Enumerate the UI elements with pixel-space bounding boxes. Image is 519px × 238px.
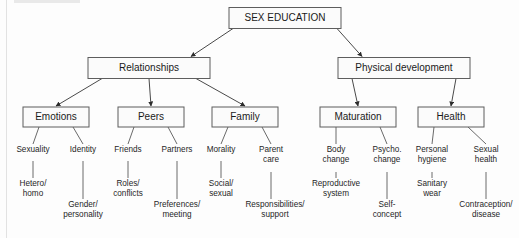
stem-family-to-morality bbox=[221, 127, 228, 144]
node-health-label: Health bbox=[437, 111, 466, 122]
leaf-text-line: concept bbox=[373, 210, 402, 219]
leaf-text-line: Psycho. bbox=[372, 145, 401, 154]
leaf-text-line: homo bbox=[23, 189, 44, 198]
leaf-sanitary-wear: Sanitarywear bbox=[417, 179, 448, 198]
leaf-text-line: Roles/ bbox=[116, 179, 140, 188]
leaf-text-line: change bbox=[374, 155, 401, 164]
leaf-text-line: Gender/ bbox=[68, 200, 98, 209]
stem-emotions-to-identity bbox=[73, 127, 83, 144]
leaf-text-line: Identity bbox=[70, 145, 97, 154]
leaf-text-line: Sanitary bbox=[417, 179, 448, 188]
leaf-parent-care: Parentcare bbox=[259, 145, 284, 164]
arrow-relationships-to-family bbox=[196, 79, 245, 107]
leaf-sexual-health: Sexualhealth bbox=[473, 145, 498, 164]
node-peers: Peers bbox=[118, 107, 184, 127]
leaf-text-line: personality bbox=[63, 210, 104, 219]
leaf-morality: Morality bbox=[207, 145, 237, 154]
leaf-identity: Identity bbox=[70, 145, 97, 154]
arrow-physical-development-to-maturation bbox=[352, 79, 358, 107]
leaf-social-sexual: Social/sexual bbox=[209, 179, 234, 198]
clipped-header-artifact bbox=[14, 0, 80, 3]
leaf-friends: Friends bbox=[114, 145, 141, 154]
leaf-text-line: disease bbox=[472, 210, 501, 219]
leaf-responsibilities-support: Responsibilities/support bbox=[245, 200, 305, 219]
node-family: Family bbox=[212, 107, 278, 127]
arrow-relationships-to-emotions bbox=[56, 79, 102, 107]
leaf-contraception-disease: Contraception/disease bbox=[459, 200, 513, 219]
leaf-roles-conflicts: Roles/conflicts bbox=[113, 179, 143, 198]
leaf-text-line: sexual bbox=[209, 189, 233, 198]
leaf-gender-personality: Gender/personality bbox=[63, 200, 104, 219]
leaf-text-line: Parent bbox=[259, 145, 284, 154]
node-emotions-label: Emotions bbox=[35, 111, 77, 122]
leaf-reproductive-system: Reproductivesystem bbox=[312, 179, 361, 198]
stem-family-to-parent-care bbox=[262, 127, 271, 144]
node-sex-education: SEX EDUCATION bbox=[229, 8, 341, 29]
leaf-hetero-homo: Hetero/homo bbox=[20, 179, 48, 198]
leaf-sexuality: Sexuality bbox=[16, 145, 50, 154]
leaf-text-line: meeting bbox=[162, 210, 192, 219]
leaf-text-line: hygiene bbox=[418, 155, 447, 164]
node-boxes: SEX EDUCATIONRelationshipsPhysical devel… bbox=[23, 8, 484, 128]
stem-health-to-personal-hygiene bbox=[432, 127, 434, 144]
sex-education-tree-diagram: SEX EDUCATIONRelationshipsPhysical devel… bbox=[0, 0, 519, 238]
node-maturation-label: Maturation bbox=[334, 111, 381, 122]
leaf-text-line: Responsibilities/ bbox=[245, 200, 305, 209]
leaf-text-line: Social/ bbox=[209, 179, 234, 188]
node-health: Health bbox=[418, 107, 484, 127]
leaf-body-change: Bodychange bbox=[323, 145, 350, 164]
leaf-text-line: Contraception/ bbox=[459, 200, 513, 209]
stem-emotions-to-sexuality bbox=[33, 127, 39, 144]
leaf-text-line: Hetero/ bbox=[20, 179, 48, 188]
arrow-relationships-to-peers bbox=[149, 79, 151, 107]
leaf-labels: SexualityIdentityFriendsPartnersMorality… bbox=[16, 145, 513, 219]
node-relationships-label: Relationships bbox=[119, 62, 179, 73]
leaf-self-concept: Self-concept bbox=[373, 200, 402, 219]
leaf-text-line: Reproductive bbox=[312, 179, 361, 188]
leaf-text-line: Preferences/ bbox=[154, 200, 201, 209]
node-maturation: Maturation bbox=[320, 107, 396, 127]
leaf-text-line: Morality bbox=[207, 145, 237, 154]
leaf-text-line: change bbox=[323, 155, 350, 164]
leaf-text-line: conflicts bbox=[113, 189, 143, 198]
leaf-text-line: Personal bbox=[416, 145, 448, 154]
leaf-text-line: Friends bbox=[114, 145, 141, 154]
stem-health-to-sexual-health bbox=[468, 127, 486, 144]
stem-maturation-to-psycho-change bbox=[380, 127, 387, 144]
node-physical-development-label: Physical development bbox=[355, 62, 452, 73]
leaf-text-line: Partners bbox=[162, 145, 193, 154]
arrow-root-to-relationships bbox=[191, 29, 233, 57]
leaf-text-line: care bbox=[263, 155, 279, 164]
leaf-text-line: system bbox=[323, 189, 349, 198]
leaf-preferences-meeting: Preferences/meeting bbox=[154, 200, 201, 219]
diagram-canvas: SEX EDUCATIONRelationshipsPhysical devel… bbox=[0, 0, 519, 238]
leaf-text-line: Body bbox=[327, 145, 347, 154]
stem-peers-to-partners bbox=[168, 127, 177, 144]
leaf-text-line: Sexual bbox=[473, 145, 498, 154]
leaf-text-line: support bbox=[261, 210, 289, 219]
leaf-text-line: health bbox=[475, 155, 498, 164]
leaf-text-line: wear bbox=[422, 189, 441, 198]
node-sex-education-label: SEX EDUCATION bbox=[245, 12, 326, 23]
leaf-psycho-change: Psycho.change bbox=[372, 145, 401, 164]
leaf-partners: Partners bbox=[162, 145, 193, 154]
arrow-root-to-physical-development bbox=[337, 29, 362, 57]
node-relationships: Relationships bbox=[88, 58, 210, 79]
stem-peers-to-friends bbox=[128, 127, 134, 144]
leaf-personal-hygiene: Personalhygiene bbox=[416, 145, 448, 164]
leaf-text-line: Self- bbox=[379, 200, 396, 209]
node-emotions: Emotions bbox=[23, 107, 89, 127]
arrow-physical-development-to-health bbox=[451, 79, 456, 107]
node-physical-development: Physical development bbox=[338, 58, 470, 79]
node-family-label: Family bbox=[230, 111, 259, 122]
node-peers-label: Peers bbox=[138, 111, 164, 122]
leaf-text-line: Sexuality bbox=[16, 145, 50, 154]
